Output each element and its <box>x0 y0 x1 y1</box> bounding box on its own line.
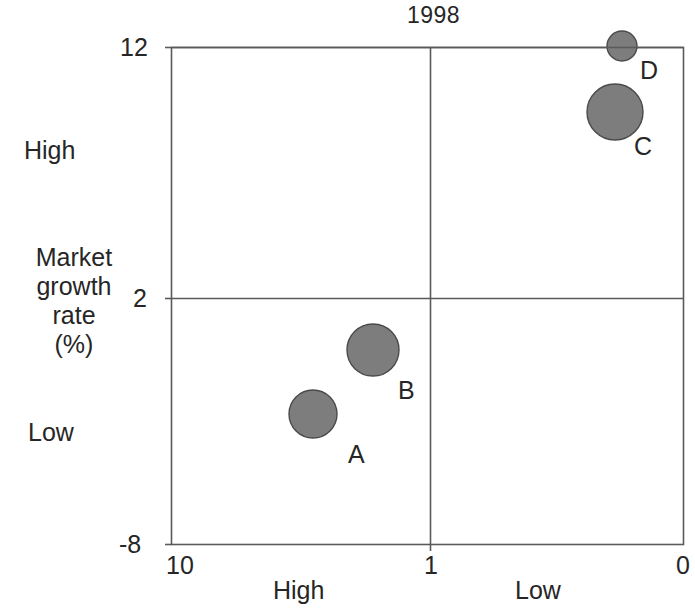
y-axis-title-line-4: (%) <box>4 330 144 359</box>
y-axis-title: Market growth rate (%) <box>4 243 144 359</box>
bubble-label-b: B <box>398 376 415 405</box>
x-axis-low-label: Low <box>515 576 561 605</box>
bubble-b <box>347 324 399 376</box>
y-tick-label-12: 12 <box>120 33 148 62</box>
x-axis-high-label: High <box>273 576 324 605</box>
x-tick-label-1: 1 <box>424 551 438 580</box>
y-tick-label-minus8: -8 <box>119 530 141 559</box>
bubble-label-c: C <box>634 132 652 161</box>
y-axis-title-line-2: growth <box>4 272 144 301</box>
bubble-label-a: A <box>348 440 365 469</box>
x-tick-label-10: 10 <box>166 551 194 580</box>
bcg-growth-share-matrix: 1998 12 2 -8 High Low M <box>0 0 695 615</box>
bubble-label-d: D <box>640 56 658 85</box>
bubble-a <box>289 390 337 438</box>
y-axis-high-label: High <box>24 136 75 165</box>
y-axis-title-line-3: rate <box>4 301 144 330</box>
y-axis-title-line-1: Market <box>4 243 144 272</box>
x-tick-label-0: 0 <box>676 551 690 580</box>
y-axis-low-label: Low <box>28 418 74 447</box>
bubble-d <box>607 31 637 61</box>
